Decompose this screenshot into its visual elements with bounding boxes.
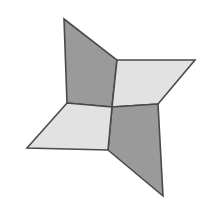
pinwheel-shuriken-figure [0,0,210,224]
figure-canvas [0,0,210,224]
